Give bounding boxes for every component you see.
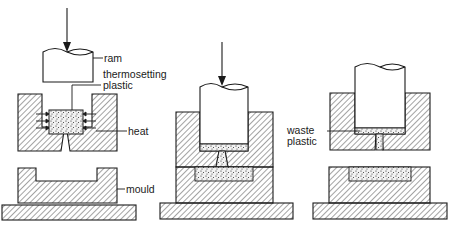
base-plate [2, 205, 136, 220]
bottom-mould-half [18, 168, 117, 203]
label-mould: mould [126, 183, 155, 195]
base-plate [160, 203, 293, 219]
ram [200, 84, 248, 145]
sprue-plastic [376, 134, 383, 150]
arrow-head-icon [218, 76, 226, 86]
label-ram: ram [104, 52, 122, 64]
thermosetting-plastic-charge [49, 110, 83, 134]
stage-1: ram thermosetting plastic heat mould [2, 8, 167, 220]
stage-3: waste plastic [286, 64, 447, 220]
base-plate [313, 203, 447, 219]
moulded-product [349, 167, 411, 181]
stage-2 [160, 42, 293, 219]
label-plastic: plastic [103, 79, 133, 91]
waste-plastic [355, 128, 405, 134]
compression-moulding-diagram: ram thermosetting plastic heat mould [0, 0, 456, 231]
ram [43, 49, 93, 83]
label-heat: heat [128, 125, 149, 137]
waste-plastic [200, 144, 248, 151]
ram [355, 64, 405, 129]
label-waste-plastic: plastic [287, 135, 317, 147]
moulded-product [195, 167, 253, 181]
